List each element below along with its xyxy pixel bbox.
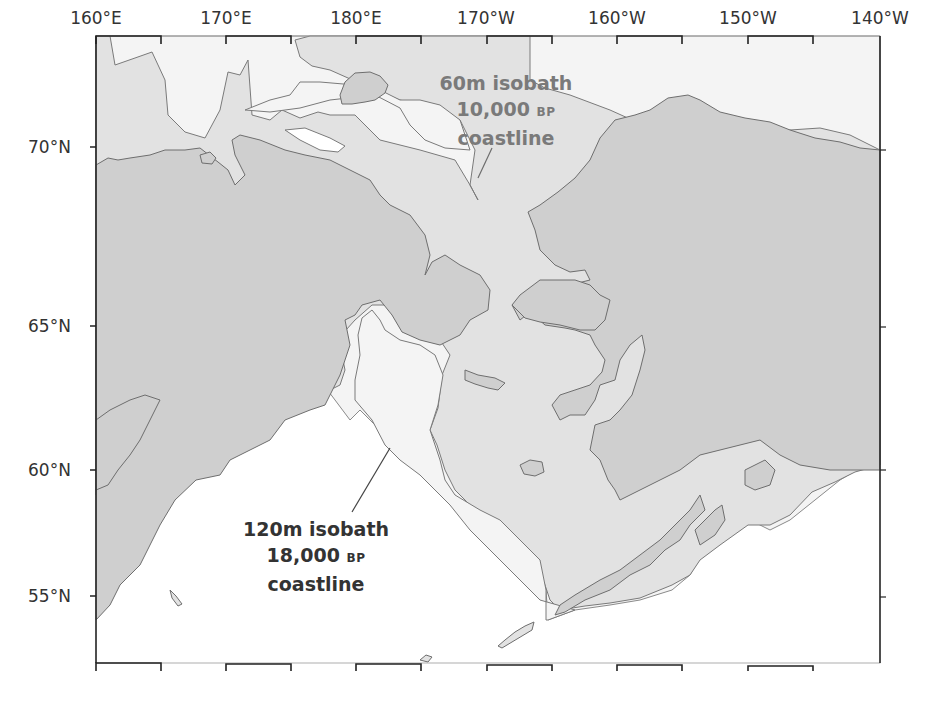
annotation-60m-bp: BP [536, 105, 555, 119]
annotation-120m-line3: coastline [243, 571, 389, 597]
bottom-frame-bars [96, 663, 813, 671]
annotation-60m-age: 10,000 [457, 98, 530, 120]
bottom-bar-4 [487, 665, 552, 671]
annotation-120m-age: 18,000 [267, 544, 340, 566]
bottom-bar-3 [356, 664, 421, 671]
bottom-bar-5 [617, 665, 682, 671]
bottom-bar-2 [226, 664, 291, 671]
annotation-120m-line1: 120m isobath [243, 516, 389, 542]
annotation-60m-isobath: 60m isobath 10,000 BP coastline [440, 70, 573, 151]
bottom-bar-1 [96, 663, 161, 671]
annotation-120m-isobath: 120m isobath 18,000 BP coastline [243, 516, 389, 597]
annotation-60m-line2: 10,000 BP [440, 96, 573, 125]
annotation-60m-line3: coastline [440, 125, 573, 151]
annotation-60m-line1: 60m isobath [440, 70, 573, 96]
left-frame-ticks [90, 147, 96, 596]
annotation-120m-bp: BP [346, 551, 365, 565]
right-frame-ticks [880, 150, 886, 597]
annotation-120m-line2: 18,000 BP [243, 542, 389, 571]
bottom-bar-6 [748, 666, 813, 671]
